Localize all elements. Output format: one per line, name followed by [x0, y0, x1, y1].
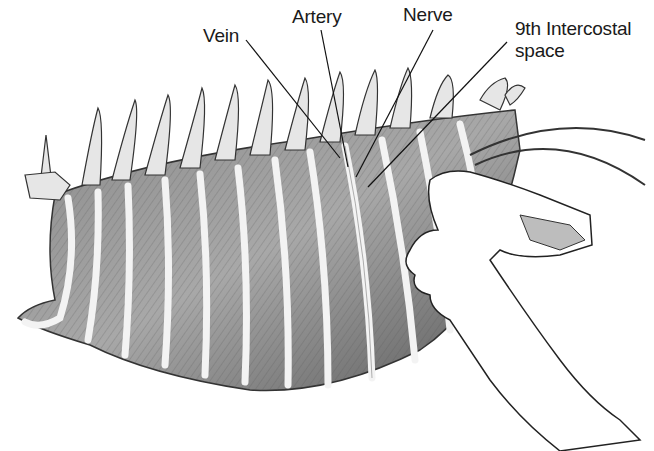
anatomy-illustration: Vein Artery Nerve 9th Intercostal space	[0, 0, 654, 451]
label-9th-intercostal: 9th Intercostal	[515, 18, 631, 39]
thorax-drawing	[0, 0, 654, 451]
hand-with-probe	[406, 128, 645, 451]
label-nerve: Nerve	[403, 4, 453, 25]
label-space: space	[515, 40, 565, 61]
label-artery: Artery	[292, 6, 341, 27]
label-vein: Vein	[203, 25, 239, 46]
